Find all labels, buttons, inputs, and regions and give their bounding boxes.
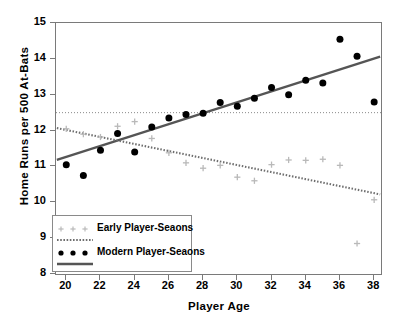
x-tickmark-38	[373, 275, 374, 280]
x-tick-24: 24	[119, 279, 149, 291]
legend-dot	[58, 250, 63, 255]
x-tick-22: 22	[84, 279, 114, 291]
x-tickmark-26	[168, 275, 169, 280]
data-point	[251, 95, 258, 102]
x-tickmark-30	[236, 275, 237, 280]
data-point	[97, 147, 104, 154]
data-point	[319, 79, 326, 86]
legend-dot	[82, 250, 87, 255]
x-tick-20: 20	[50, 279, 80, 291]
y-tick-15: 15	[20, 15, 46, 27]
fit-lines	[57, 57, 380, 195]
legend-label-modern: Modern Player-Seaons	[97, 246, 205, 257]
y-tick-9: 9	[20, 230, 46, 242]
fit-line-0	[57, 57, 380, 160]
chart-legend: Early Player-Seaons Modern Player-Seaons	[52, 215, 192, 272]
data-point	[131, 149, 138, 156]
data-point	[200, 110, 207, 117]
data-point	[234, 103, 241, 110]
y-tick-14: 14	[20, 51, 46, 63]
x-tick-26: 26	[153, 279, 183, 291]
x-tickmark-36	[339, 275, 340, 280]
x-tickmark-20	[65, 275, 66, 280]
x-tickmark-32	[271, 275, 272, 280]
legend-marker-early	[57, 224, 93, 234]
data-point	[217, 99, 224, 106]
legend-label-early: Early Player-Seaons	[97, 222, 193, 233]
x-tickmark-34	[305, 275, 306, 280]
legend-dot	[70, 250, 75, 255]
data-point	[354, 53, 361, 60]
data-point	[302, 77, 309, 84]
y-tick-12: 12	[20, 123, 46, 135]
x-tickmark-24	[134, 275, 135, 280]
data-point	[371, 98, 378, 105]
x-tickmark-22	[99, 275, 100, 280]
data-point	[268, 84, 275, 91]
data-point	[148, 123, 155, 130]
x-axis-label: Player Age	[55, 300, 383, 312]
x-tick-36: 36	[324, 279, 354, 291]
y-tick-8: 8	[20, 266, 46, 278]
data-point	[336, 36, 343, 43]
x-tick-32: 32	[256, 279, 286, 291]
data-point	[183, 111, 190, 118]
x-tickmark-28	[202, 275, 203, 280]
data-point	[63, 161, 70, 168]
figure-scatter-plot: Home Runs per 500 At-Bats Player Age 891…	[0, 0, 406, 319]
data-point	[165, 115, 172, 122]
x-tick-38: 38	[358, 279, 388, 291]
data-point	[80, 172, 87, 179]
y-tick-10: 10	[20, 194, 46, 206]
legend-marker-modern	[57, 248, 93, 258]
figure-caption-fragment	[8, 0, 398, 7]
fit-line-1	[57, 128, 380, 194]
x-tick-30: 30	[221, 279, 251, 291]
data-point	[114, 130, 121, 137]
y-tick-11: 11	[20, 158, 46, 170]
y-tick-13: 13	[20, 87, 46, 99]
x-tick-28: 28	[187, 279, 217, 291]
data-point	[285, 91, 292, 98]
x-tick-34: 34	[290, 279, 320, 291]
